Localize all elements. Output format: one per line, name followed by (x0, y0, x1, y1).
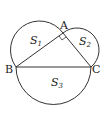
label-a: A (59, 19, 69, 32)
label-b: B (5, 63, 13, 76)
side-ac (63, 33, 91, 67)
label-s2: S2 (79, 35, 92, 49)
geometry-diagram: A B C S1 S2 S3 (0, 0, 107, 119)
label-c: C (92, 63, 100, 76)
right-angle-marker (59, 36, 66, 40)
label-s3: S3 (51, 76, 64, 90)
side-ab (16, 33, 63, 67)
label-s1: S1 (30, 34, 42, 48)
